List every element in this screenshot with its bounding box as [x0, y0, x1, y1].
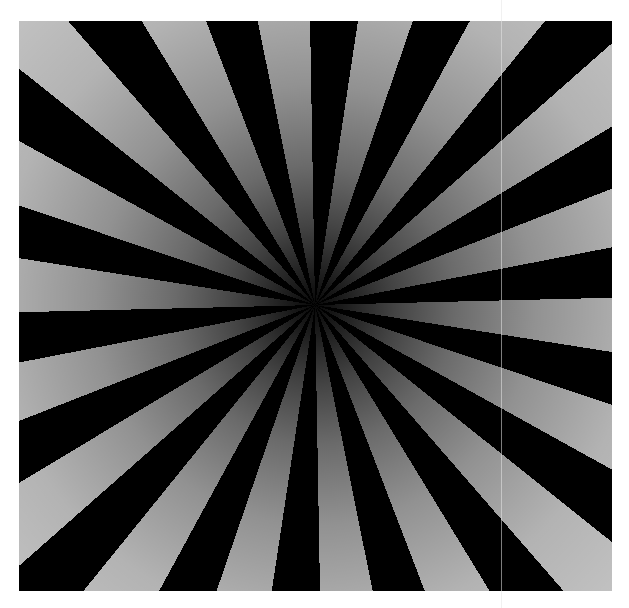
sunburst-pattern: [19, 21, 612, 591]
image-canvas: [0, 0, 629, 608]
center-shading: [19, 21, 612, 591]
vertical-artifact-line: [501, 0, 502, 608]
